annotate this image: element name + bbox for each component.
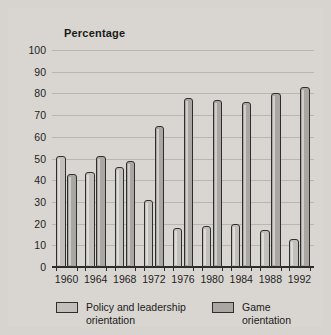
y-axis-tick-label: 20 [34, 218, 46, 230]
bar-1988-game [271, 93, 281, 267]
bar-highlight [262, 233, 264, 265]
x-axis-tick [260, 267, 261, 271]
bar-1960-game [67, 174, 77, 267]
bar-highlight [175, 231, 177, 265]
bar-1980-policy [202, 226, 212, 267]
bar-highlight [215, 103, 217, 265]
chart-plate: Percentage 1009080706050403020100 196019… [8, 8, 323, 327]
gridline [52, 72, 314, 73]
x-axis-tick-label: 1988 [259, 273, 282, 285]
y-axis-tick-label: 100 [28, 44, 46, 56]
x-axis-tick [56, 267, 57, 271]
bar-highlight [204, 229, 206, 265]
y-axis-tick-label: 10 [34, 239, 46, 251]
bar-1964-policy [85, 172, 95, 267]
bar-1976-game [184, 98, 194, 267]
x-axis-tick [281, 267, 282, 271]
bar-highlight [128, 164, 130, 265]
bar-1968-policy [115, 167, 125, 267]
x-axis-tick [222, 267, 223, 271]
chart-title: Percentage [64, 27, 125, 39]
bar-1976-policy [173, 228, 183, 267]
legend-swatch-icon-policy [56, 302, 78, 313]
y-axis-tick-label: 60 [34, 131, 46, 143]
bar-1984-policy [231, 224, 241, 267]
legend-item-policy-and-leadership-orientation: Policy and leadership orientation [56, 301, 206, 326]
bar-highlight [146, 203, 148, 265]
x-axis-tick [173, 267, 174, 271]
bar-highlight [302, 90, 304, 265]
bar-highlight [98, 159, 100, 265]
bar-highlight [117, 170, 119, 265]
bar-1980-game [213, 100, 223, 267]
y-axis-tick-label: 0 [40, 261, 46, 273]
legend-item-game-orientation: Game orientation [212, 301, 320, 326]
bar-1968-game [126, 161, 136, 267]
y-axis-tick-label: 90 [34, 66, 46, 78]
x-axis-tick [164, 267, 165, 271]
x-axis-tick [144, 267, 145, 271]
bar-highlight [87, 175, 89, 265]
legend-swatch-icon-game [212, 302, 234, 313]
x-axis-tick-label: 1960 [55, 273, 78, 285]
y-axis-tick-label: 30 [34, 196, 46, 208]
chart-figure: Percentage 1009080706050403020100 196019… [0, 0, 331, 335]
x-axis-tick-label: 1964 [84, 273, 107, 285]
x-axis-tick [310, 267, 311, 271]
x-axis-tick [231, 267, 232, 271]
bar-highlight [157, 129, 159, 265]
x-axis-tick [289, 267, 290, 271]
x-axis-tick-label: 1992 [288, 273, 311, 285]
x-axis-tick [251, 267, 252, 271]
x-axis-tick-label: 1980 [200, 273, 223, 285]
bar-highlight [233, 227, 235, 265]
x-axis-tick-label: 1972 [142, 273, 165, 285]
bar-highlight [69, 177, 71, 265]
bar-1964-game [96, 156, 106, 267]
bar-highlight [291, 242, 293, 265]
x-axis-tick [135, 267, 136, 271]
legend-label-game: Game orientation [242, 301, 320, 326]
x-axis-tick [202, 267, 203, 271]
x-axis-tick-label: 1984 [230, 273, 253, 285]
y-axis-tick-label: 50 [34, 153, 46, 165]
bar-highlight [273, 96, 275, 265]
gridline [52, 50, 314, 51]
y-axis-tick-label: 70 [34, 109, 46, 121]
plot-area: 1009080706050403020100 19601964196819721… [52, 50, 314, 267]
bar-1960-policy [56, 156, 66, 267]
bar-1984-game [242, 102, 252, 267]
y-axis-tick-label: 40 [34, 174, 46, 186]
x-axis-tick [77, 267, 78, 271]
x-axis-tick [85, 267, 86, 271]
bar-1972-game [155, 126, 165, 267]
bar-highlight [244, 105, 246, 265]
bar-1972-policy [144, 200, 154, 267]
bar-1992-game [300, 87, 310, 267]
legend-label-policy: Policy and leadership orientation [86, 301, 186, 326]
x-axis-tick [193, 267, 194, 271]
bar-1988-policy [260, 230, 270, 267]
bar-highlight [186, 101, 188, 265]
x-axis-tick [106, 267, 107, 271]
bar-1992-policy [289, 239, 299, 267]
chart-legend: Policy and leadership orientation Game o… [52, 301, 320, 335]
x-axis-tick-label: 1968 [113, 273, 136, 285]
x-axis-tick-label: 1976 [171, 273, 194, 285]
bar-highlight [58, 159, 60, 265]
x-axis-tick [115, 267, 116, 271]
y-axis-tick-label: 80 [34, 87, 46, 99]
